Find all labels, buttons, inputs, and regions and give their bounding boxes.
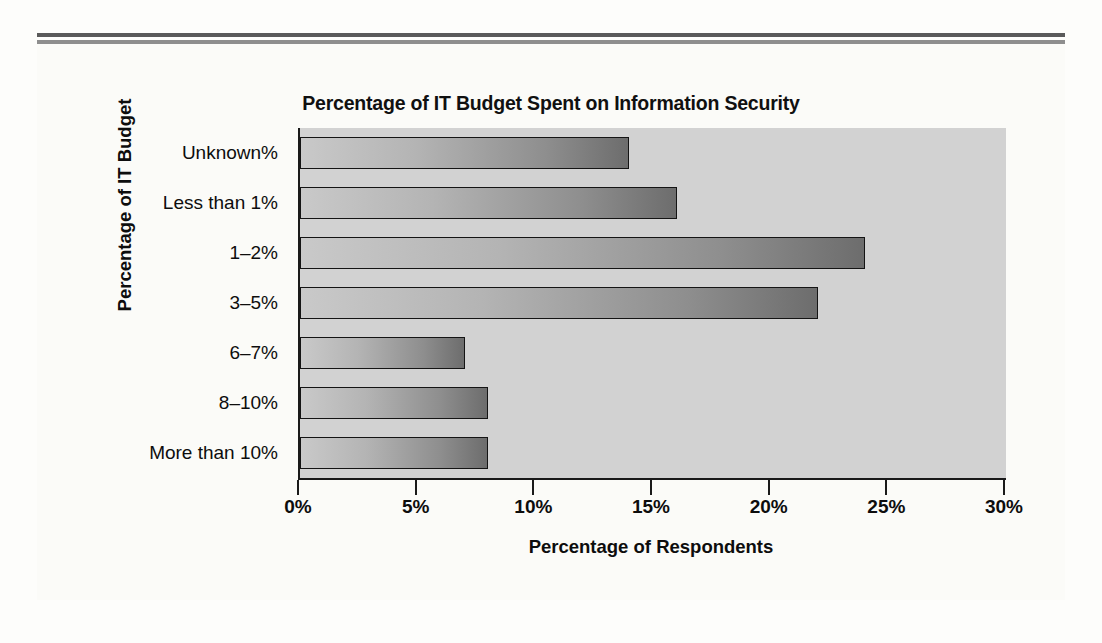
bar-row: [300, 228, 1006, 278]
x-axis-tick: [885, 480, 887, 495]
bar: [300, 137, 629, 169]
bar-row: [300, 428, 1006, 478]
x-axis-tick-label: 25%: [867, 496, 905, 518]
y-axis-tick-label: 8–10%: [77, 378, 290, 428]
y-axis-tick-labels: Unknown%Less than 1%1–2%3–5%6–7%8–10%Mor…: [77, 128, 290, 478]
y-axis-tick-label: 1–2%: [77, 228, 290, 278]
bar-row: [300, 378, 1006, 428]
chart-page: Percentage of IT Budget Spent on Informa…: [0, 0, 1102, 643]
bar-row: [300, 178, 1006, 228]
y-axis-tick-label: 6–7%: [77, 328, 290, 378]
x-axis-tick: [650, 480, 652, 495]
bar: [300, 237, 865, 269]
bar-series: [300, 128, 1006, 478]
x-axis-title: Percentage of Respondents: [298, 536, 1004, 558]
x-axis-tick-label: 10%: [514, 496, 552, 518]
x-axis-ticks: [298, 480, 1004, 496]
bar: [300, 387, 488, 419]
y-axis-tick-label: Less than 1%: [77, 178, 290, 228]
x-axis-tick: [297, 480, 299, 495]
bar: [300, 287, 818, 319]
y-axis-tick-label: 3–5%: [77, 278, 290, 328]
x-axis-tick: [1003, 480, 1005, 495]
x-axis-tick-label: 15%: [632, 496, 670, 518]
bar-row: [300, 278, 1006, 328]
chart-container: Percentage of IT Budget Spent on Informa…: [37, 44, 1065, 600]
x-axis-tick-label: 5%: [402, 496, 429, 518]
bar-row: [300, 328, 1006, 378]
bar: [300, 187, 677, 219]
x-axis-tick: [415, 480, 417, 495]
top-double-rule: [37, 33, 1065, 44]
x-axis-tick-labels: 0%5%10%15%20%25%30%: [298, 496, 1004, 522]
x-axis-tick-label: 0%: [284, 496, 311, 518]
bar: [300, 337, 465, 369]
bar: [300, 437, 488, 469]
chart-title: Percentage of IT Budget Spent on Informa…: [37, 92, 1065, 115]
y-axis-tick-label: Unknown%: [77, 128, 290, 178]
x-axis-tick: [768, 480, 770, 495]
plot-area: [298, 128, 1006, 480]
rule-thick: [37, 33, 1065, 37]
y-axis-tick-label: More than 10%: [77, 428, 290, 478]
x-axis-tick-label: 20%: [750, 496, 788, 518]
x-axis-tick: [532, 480, 534, 495]
bar-row: [300, 128, 1006, 178]
x-axis-tick-label: 30%: [985, 496, 1023, 518]
